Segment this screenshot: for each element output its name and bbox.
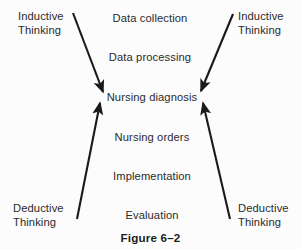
label-inductive-thinking-right: Inductive Thinking <box>238 10 284 37</box>
label-line-1: Inductive <box>238 10 284 24</box>
label-line-1: Inductive <box>18 10 64 24</box>
node-data-collection: Data collection <box>113 12 188 25</box>
label-deductive-thinking-right: Deductive Thinking <box>238 202 289 229</box>
label-line-1: Deductive <box>13 202 64 216</box>
label-inductive-thinking-left: Inductive Thinking <box>18 10 64 37</box>
node-implementation: Implementation <box>113 170 191 183</box>
label-line-2: Thinking <box>238 24 284 38</box>
node-nursing-orders: Nursing orders <box>115 131 190 144</box>
label-line-2: Thinking <box>238 216 289 230</box>
label-line-2: Thinking <box>13 216 64 230</box>
figure-caption: Figure 6–2 <box>0 231 301 244</box>
arrow-deductive-left <box>77 103 100 219</box>
arrow-inductive-left <box>73 13 103 92</box>
node-evaluation: Evaluation <box>125 209 178 222</box>
arrow-deductive-right <box>203 103 230 219</box>
figure-container: Data collection Data processing Nursing … <box>0 0 301 250</box>
label-deductive-thinking-left: Deductive Thinking <box>13 202 64 229</box>
arrow-inductive-right <box>201 14 233 91</box>
label-line-1: Deductive <box>238 202 289 216</box>
label-line-2: Thinking <box>18 24 64 38</box>
node-nursing-diagnosis: Nursing diagnosis <box>107 91 198 104</box>
node-data-processing: Data processing <box>109 51 191 64</box>
